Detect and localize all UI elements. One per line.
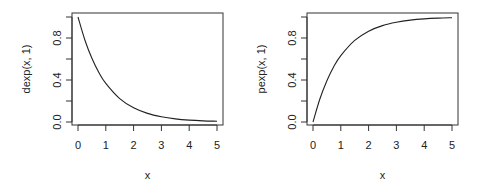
x-axis (78, 125, 217, 131)
plot-frame (72, 13, 223, 125)
panel-dexp: 0 1 2 3 4 5 0.0 0.4 0.8 x dexp(x, 1) (20, 13, 223, 181)
y-axis (66, 17, 72, 122)
y-axis-title: pexp(x, 1) (255, 45, 267, 94)
x-tick-label: 3 (393, 139, 399, 151)
pexp-curve (313, 18, 452, 122)
panel-pexp: 0 1 2 3 4 5 0.0 0.4 0.8 x pexp(x, 1) (255, 13, 458, 181)
y-axis-title: dexp(x, 1) (20, 45, 32, 94)
dexp-curve (78, 17, 217, 121)
x-tick-label: 3 (158, 139, 164, 151)
y-tick-label: 0.0 (286, 114, 298, 129)
x-tick-label: 0 (310, 139, 316, 151)
y-tick-label: 0.0 (51, 114, 63, 129)
x-tick-label: 2 (366, 139, 372, 151)
x-tick-label: 4 (421, 139, 427, 151)
x-tick-labels: 0 1 2 3 4 5 (310, 139, 455, 151)
x-tick-label: 4 (186, 139, 192, 151)
y-tick-label: 0.4 (51, 72, 63, 87)
x-tick-label: 5 (449, 139, 455, 151)
y-tick-label: 0.8 (286, 30, 298, 45)
x-tick-label: 2 (131, 139, 137, 151)
chart-canvas: 0 1 2 3 4 5 0.0 0.4 0.8 x dexp(x, 1) (0, 0, 481, 189)
y-tick-label: 0.4 (286, 72, 298, 87)
x-tick-labels: 0 1 2 3 4 5 (75, 139, 220, 151)
x-axis (313, 125, 452, 131)
y-axis (301, 17, 307, 122)
x-tick-label: 1 (338, 139, 344, 151)
x-tick-label: 5 (214, 139, 220, 151)
x-axis-title: x (145, 169, 151, 181)
x-tick-label: 1 (103, 139, 109, 151)
y-tick-label: 0.8 (51, 30, 63, 45)
plot-frame (307, 13, 458, 125)
y-tick-labels: 0.0 0.4 0.8 (51, 30, 63, 129)
y-tick-labels: 0.0 0.4 0.8 (286, 30, 298, 129)
x-axis-title: x (380, 169, 386, 181)
x-tick-label: 0 (75, 139, 81, 151)
